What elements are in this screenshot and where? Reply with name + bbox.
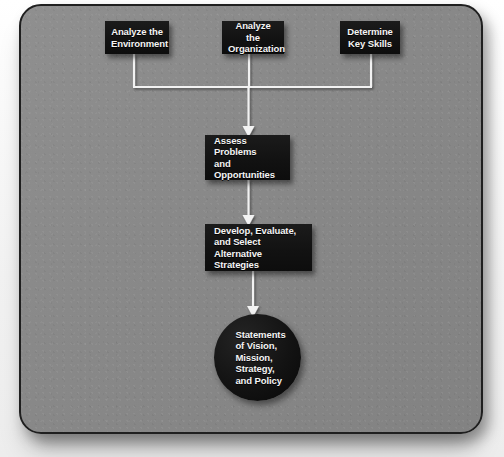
- node-analyze-organization: Analyze the Organization: [222, 21, 284, 54]
- node-develop-strategies-label: Develop, Evaluate, and Select Alternativ…: [205, 225, 312, 271]
- node-determine-key-skills-label: Determine Key Skills: [340, 26, 400, 49]
- node-analyze-organization-label: Analyze the Organization: [222, 20, 284, 55]
- node-analyze-environment-label: Analyze the Environment: [105, 26, 169, 49]
- node-analyze-environment: Analyze the Environment: [105, 21, 169, 54]
- node-statements-circle: Statements of Vision, Mission, Strategy,…: [214, 314, 301, 401]
- node-assess-problems: Assess Problems and Opportunities: [205, 135, 290, 180]
- node-determine-key-skills: Determine Key Skills: [340, 21, 400, 54]
- node-statements-label: Statements of Vision, Mission, Strategy,…: [229, 329, 285, 387]
- node-assess-problems-label: Assess Problems and Opportunities: [205, 135, 290, 181]
- node-develop-strategies: Develop, Evaluate, and Select Alternativ…: [205, 224, 312, 271]
